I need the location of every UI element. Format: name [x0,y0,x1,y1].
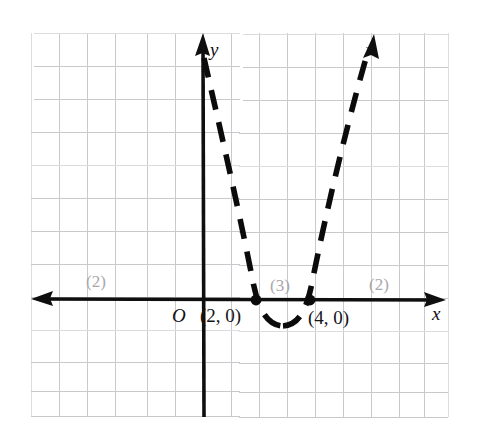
y-axis-label: y [208,39,219,60]
root-dot-left [251,295,262,306]
root-dot-right [305,295,316,306]
x-axis-arrow-left [31,291,53,306]
root-label-right: (4, 0) [308,307,349,329]
multiplicity-label-middle: (3) [270,276,290,295]
multiplicity-label-right: (2) [369,275,389,294]
multiplicity-label-left: (2) [86,272,106,291]
root-label-left: (2, 0) [200,305,241,327]
coordinate-plane-svg: y x O (2, 0) (4, 0) (2) (3) (2) [0,0,484,434]
curve-right-branch [283,48,369,326]
x-axis-label: x [431,303,441,324]
graph-figure: y x O (2, 0) (4, 0) (2) (3) (2) [0,0,484,434]
polynomial-curve [204,34,379,326]
y-axis [195,33,210,417]
origin-label: O [172,305,186,326]
y-axis-arrow-up [195,33,210,56]
